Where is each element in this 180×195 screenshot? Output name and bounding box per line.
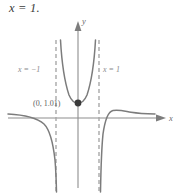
marked-point-dot bbox=[75, 100, 82, 107]
x-axis-arrowhead bbox=[156, 115, 166, 122]
left-asymptote-label: x = −1 bbox=[17, 65, 40, 74]
marked-point-label: (0, 1.01) bbox=[33, 99, 61, 108]
x-axis-label: x bbox=[168, 113, 173, 123]
right-asymptote-label: x = 1 bbox=[102, 65, 120, 74]
figure-container: x = 1. y x x = −1 x = 1 bbox=[0, 0, 180, 195]
y-axis-arrowhead bbox=[75, 21, 82, 31]
marked-point: (0, 1.01) bbox=[33, 99, 81, 108]
y-axis-label: y bbox=[81, 16, 86, 26]
curve-branches bbox=[8, 40, 155, 192]
branch-left-path bbox=[8, 114, 57, 192]
asymptotes: x = −1 x = 1 bbox=[17, 40, 120, 192]
branch-right-path bbox=[101, 110, 156, 192]
function-graph: y x x = −1 x = 1 (0, 1.01) bbox=[0, 0, 180, 195]
